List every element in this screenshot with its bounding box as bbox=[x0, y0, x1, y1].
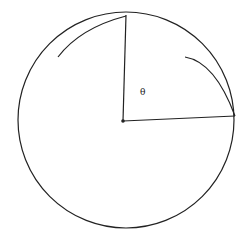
theta-label: θ bbox=[140, 87, 145, 97]
circle bbox=[18, 12, 234, 228]
diagram-canvas bbox=[0, 0, 248, 237]
inner-arc-left bbox=[58, 16, 126, 57]
center-point bbox=[121, 119, 125, 123]
inner-arc-right bbox=[185, 57, 235, 116]
radius-vertical bbox=[123, 15, 126, 121]
radius-horizontal bbox=[123, 116, 235, 121]
